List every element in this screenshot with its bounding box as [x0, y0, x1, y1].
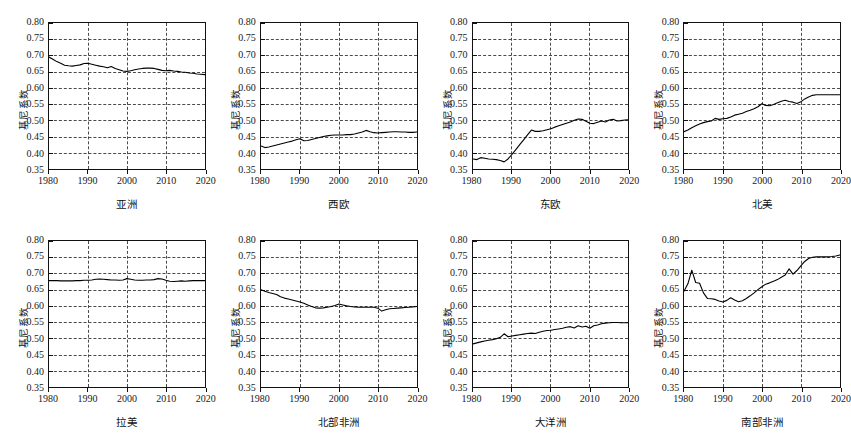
- x-tick-label: 2000: [117, 394, 137, 404]
- series-line: [684, 241, 840, 387]
- panel-asia: 基尼系数0.350.400.450.500.550.600.650.700.75…: [0, 0, 212, 218]
- y-tick-label: 0.80: [662, 17, 680, 27]
- x-tick-label: 1990: [501, 176, 521, 186]
- x-axis-ticks: 19801990200020102020: [48, 174, 206, 188]
- y-tick-label: 0.60: [450, 301, 468, 311]
- x-tick-mark: [206, 170, 207, 174]
- y-tick-label: 0.50: [662, 116, 680, 126]
- x-axis-ticks: 19801990200020102020: [683, 392, 841, 406]
- y-tick-label: 0.40: [450, 149, 468, 159]
- x-tick-label: 2010: [368, 394, 388, 404]
- x-tick-mark: [299, 170, 300, 174]
- panel-eastern-europe: 基尼系数0.350.400.450.500.550.600.650.700.75…: [424, 0, 636, 218]
- y-tick-mark: [49, 387, 53, 388]
- panel-latin-america: 基尼系数0.350.400.450.500.550.600.650.700.75…: [0, 218, 212, 436]
- y-tick-label: 0.65: [238, 66, 256, 76]
- x-tick-label: 2000: [329, 394, 349, 404]
- y-tick-label: 0.50: [27, 334, 45, 344]
- panel-title-north-america: 北美: [683, 196, 841, 211]
- y-tick-label: 0.75: [27, 251, 45, 261]
- panel-title-latin-america: 拉美: [48, 414, 206, 429]
- y-tick-label: 0.45: [662, 350, 680, 360]
- x-tick-label: 1990: [77, 176, 97, 186]
- y-tick-label: 0.65: [662, 66, 680, 76]
- y-tick-label: 0.55: [238, 317, 256, 327]
- y-tick-label: 0.60: [27, 301, 45, 311]
- x-tick-label: 1990: [713, 176, 733, 186]
- y-tick-label: 0.45: [662, 132, 680, 142]
- x-tick-mark: [260, 170, 261, 174]
- x-axis-ticks: 19801990200020102020: [472, 174, 630, 188]
- y-tick-mark: [473, 169, 477, 170]
- x-tick-label: 2000: [540, 176, 560, 186]
- y-axis-ticks: 0.350.400.450.500.550.600.650.700.750.80: [228, 22, 258, 170]
- plot-area: [683, 22, 841, 170]
- y-axis-ticks: 0.350.400.450.500.550.600.650.700.750.80: [651, 240, 681, 388]
- x-axis-ticks: 19801990200020102020: [472, 392, 630, 406]
- panel-title-north-africa: 北部非洲: [260, 414, 418, 429]
- x-tick-mark: [378, 388, 379, 392]
- y-tick-label: 0.50: [238, 334, 256, 344]
- y-tick-label: 0.65: [450, 66, 468, 76]
- y-tick-label: 0.65: [238, 284, 256, 294]
- y-tick-label: 0.45: [450, 132, 468, 142]
- y-axis-ticks: 0.350.400.450.500.550.600.650.700.750.80: [228, 240, 258, 388]
- x-tick-mark: [802, 388, 803, 392]
- y-tick-label: 0.70: [450, 50, 468, 60]
- x-tick-label: 1990: [713, 394, 733, 404]
- y-tick-label: 0.75: [450, 33, 468, 43]
- y-tick-label: 0.35: [27, 165, 45, 175]
- x-tick-mark: [511, 170, 512, 174]
- x-tick-label: 1980: [250, 394, 270, 404]
- x-tick-mark: [723, 170, 724, 174]
- y-tick-label: 0.55: [238, 99, 256, 109]
- x-tick-label: 2000: [752, 176, 772, 186]
- y-tick-label: 0.40: [27, 149, 45, 159]
- x-axis-ticks: 19801990200020102020: [260, 174, 418, 188]
- y-tick-label: 0.40: [450, 367, 468, 377]
- y-tick-label: 0.70: [238, 50, 256, 60]
- x-tick-mark: [762, 170, 763, 174]
- x-tick-label: 2010: [156, 394, 176, 404]
- y-tick-label: 0.50: [238, 116, 256, 126]
- x-axis-ticks: 19801990200020102020: [48, 392, 206, 406]
- x-tick-mark: [299, 388, 300, 392]
- y-tick-mark: [684, 169, 688, 170]
- y-tick-label: 0.70: [27, 50, 45, 60]
- y-tick-label: 0.75: [238, 251, 256, 261]
- y-tick-label: 0.45: [450, 350, 468, 360]
- panel-title-eastern-europe: 东欧: [472, 196, 630, 211]
- x-tick-mark: [472, 388, 473, 392]
- panel-southern-africa: 基尼系数0.350.400.450.500.550.600.650.700.75…: [635, 218, 847, 436]
- x-tick-label: 1990: [77, 394, 97, 404]
- plot-area: [683, 240, 841, 388]
- panel-title-oceania: 大洋洲: [472, 414, 630, 429]
- series-line: [473, 241, 629, 387]
- y-tick-label: 0.75: [27, 33, 45, 43]
- y-tick-label: 0.55: [27, 99, 45, 109]
- y-tick-label: 0.65: [27, 66, 45, 76]
- series-line: [49, 23, 205, 169]
- y-tick-label: 0.50: [450, 334, 468, 344]
- x-tick-mark: [472, 170, 473, 174]
- x-tick-mark: [683, 170, 684, 174]
- x-tick-label: 2010: [792, 394, 812, 404]
- y-tick-label: 0.70: [450, 268, 468, 278]
- y-tick-label: 0.60: [238, 301, 256, 311]
- plot-area: [260, 22, 418, 170]
- y-tick-label: 0.55: [662, 99, 680, 109]
- x-tick-mark: [378, 170, 379, 174]
- x-tick-label: 1990: [501, 394, 521, 404]
- y-axis-ticks: 0.350.400.450.500.550.600.650.700.750.80: [16, 240, 46, 388]
- x-tick-label: 2000: [329, 176, 349, 186]
- y-tick-label: 0.40: [27, 367, 45, 377]
- x-tick-mark: [629, 388, 630, 392]
- x-tick-mark: [762, 388, 763, 392]
- y-tick-label: 0.80: [662, 235, 680, 245]
- x-tick-mark: [802, 170, 803, 174]
- y-tick-mark: [261, 387, 265, 388]
- x-axis-ticks: 19801990200020102020: [260, 392, 418, 406]
- y-tick-label: 0.55: [27, 317, 45, 327]
- y-axis-ticks: 0.350.400.450.500.550.600.650.700.750.80: [440, 240, 470, 388]
